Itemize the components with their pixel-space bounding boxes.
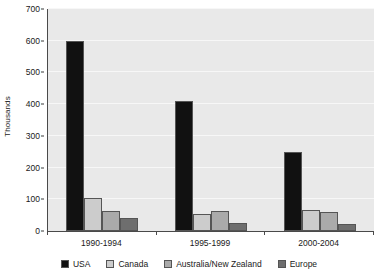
legend-swatch-icon	[106, 260, 114, 268]
bar-group	[66, 9, 138, 231]
y-tick-label: 700	[26, 4, 40, 14]
y-tick-mark	[41, 199, 44, 200]
y-tick-label: 100	[26, 194, 40, 204]
bar-australia-new-zealand	[102, 211, 120, 231]
legend-item: Canada	[106, 259, 148, 269]
y-tick-label: 0	[35, 226, 40, 236]
x-tick-mark	[373, 232, 374, 235]
legend-label: Europe	[290, 259, 317, 269]
bar-europe	[229, 223, 247, 231]
legend-item: Europe	[278, 259, 317, 269]
bar-usa	[66, 41, 84, 231]
bar-europe	[338, 224, 356, 231]
y-tick-label: 400	[26, 99, 40, 109]
legend-swatch-icon	[61, 260, 69, 268]
x-axis-label: 2000-2004	[298, 238, 339, 248]
y-tick-mark	[41, 9, 44, 10]
y-tick-mark	[41, 40, 44, 41]
bar-usa	[284, 152, 302, 231]
y-tick-mark	[41, 104, 44, 105]
legend-label: USA	[73, 259, 90, 269]
plot-area	[47, 9, 374, 232]
bar-australia-new-zealand	[320, 212, 338, 231]
bars-layer	[48, 9, 374, 231]
y-tick-mark	[41, 167, 44, 168]
bar-canada	[193, 214, 211, 231]
x-tick-mark	[264, 232, 265, 235]
x-axis-label: 1995-1999	[190, 238, 231, 248]
chart-legend: USACanadaAustralia/New ZealandEurope	[0, 257, 378, 271]
legend-label: Canada	[118, 259, 148, 269]
bar-australia-new-zealand	[211, 211, 229, 231]
bar-europe	[120, 218, 138, 231]
y-axis-title-label: Thousands	[3, 96, 12, 136]
bar-group	[284, 9, 356, 231]
bar-group	[175, 9, 247, 231]
x-tick-mark	[156, 232, 157, 235]
bar-usa	[175, 101, 193, 231]
bar-chart: Thousands 0100200300400500600700 1990-19…	[0, 0, 378, 275]
y-tick-mark	[41, 231, 44, 232]
x-axis: 1990-19941995-19992000-2004	[47, 232, 374, 252]
legend-item: USA	[61, 259, 90, 269]
y-tick-label: 500	[26, 67, 40, 77]
y-axis-ticks: 0100200300400500600700	[14, 0, 44, 232]
y-tick-mark	[41, 72, 44, 73]
legend-item: Australia/New Zealand	[164, 259, 262, 269]
x-axis-label: 1990-1994	[81, 238, 122, 248]
y-tick-label: 200	[26, 163, 40, 173]
legend-swatch-icon	[164, 260, 172, 268]
bar-canada	[84, 198, 102, 231]
bar-canada	[302, 210, 320, 231]
x-tick-mark	[47, 232, 48, 235]
legend-label: Australia/New Zealand	[176, 259, 262, 269]
y-tick-label: 300	[26, 131, 40, 141]
y-tick-label: 600	[26, 36, 40, 46]
legend-swatch-icon	[278, 260, 286, 268]
y-tick-mark	[41, 135, 44, 136]
y-axis-title: Thousands	[0, 0, 14, 232]
